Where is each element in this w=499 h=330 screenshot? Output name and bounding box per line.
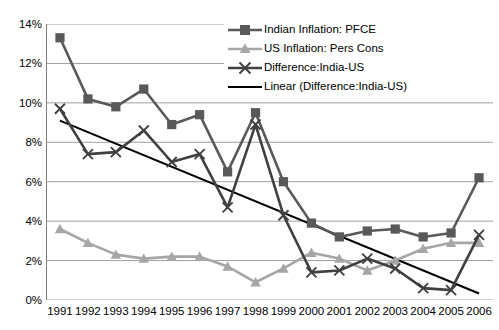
data-point — [223, 167, 232, 176]
series-line — [60, 229, 479, 282]
x-axis: 1991199219931994199519961997199819992000… — [46, 305, 493, 325]
data-point — [55, 33, 64, 42]
data-point — [335, 232, 344, 241]
data-point — [419, 232, 428, 241]
data-point — [167, 120, 176, 129]
y-tick-label: 10% — [0, 97, 42, 108]
y-tick-label: 12% — [0, 58, 42, 69]
legend-label: US Inflation: Pers Cons — [264, 42, 384, 55]
data-point — [111, 102, 120, 111]
data-point — [83, 94, 92, 103]
legend-item-linear-trend[interactable]: Linear (Difference:India-US) — [226, 77, 494, 96]
y-tick-label: 2% — [0, 255, 42, 266]
y-tick-label: 14% — [0, 19, 42, 30]
line-triangle-marker-icon — [226, 41, 264, 57]
legend-item-indian-inflation[interactable]: Indian Inflation: PFCE — [226, 20, 494, 39]
data-point — [474, 173, 483, 182]
data-point — [55, 224, 65, 233]
y-axis: 0%2%4%6%8%10%12%14% — [0, 24, 42, 300]
legend-label: Indian Inflation: PFCE — [264, 23, 376, 36]
data-point — [278, 263, 288, 272]
data-point — [307, 219, 316, 228]
y-tick-label: 8% — [0, 137, 42, 148]
x-tick-label: 2006 — [462, 305, 496, 318]
data-point — [139, 84, 148, 93]
legend-item-us-inflation[interactable]: US Inflation: Pers Cons — [226, 39, 494, 58]
y-tick-label: 0% — [0, 295, 42, 306]
data-point — [363, 226, 372, 235]
series-2 — [55, 104, 484, 295]
data-point — [279, 177, 288, 186]
legend-label: Difference:India-US — [264, 61, 364, 74]
series-line — [60, 109, 479, 290]
legend-label: Linear (Difference:India-US) — [264, 80, 407, 93]
data-point — [251, 108, 260, 117]
plain-line-icon — [226, 79, 264, 95]
inflation-comparison-chart: 0%2%4%6%8%10%12%14% 19911992199319941995… — [0, 0, 499, 330]
y-tick-label: 4% — [0, 216, 42, 227]
line-square-marker-icon — [226, 22, 264, 38]
data-point — [446, 228, 455, 237]
legend-item-difference[interactable]: Difference:India-US — [226, 58, 494, 77]
data-point — [195, 110, 204, 119]
y-tick-label: 6% — [0, 176, 42, 187]
chart-legend: Indian Inflation: PFCE US Inflation: Per… — [224, 17, 496, 99]
line-cross-marker-icon — [226, 60, 264, 76]
data-point — [391, 224, 400, 233]
